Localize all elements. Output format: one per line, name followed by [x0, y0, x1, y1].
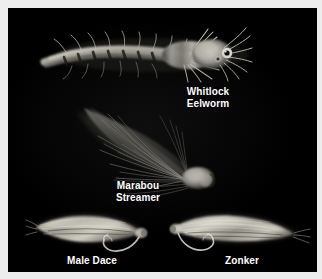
photo-frame: Whitlock Eelworm Marabou Streamer Male D…: [0, 0, 322, 279]
fly-whitlock-eelworm: [38, 22, 253, 84]
fly-male-dace: [26, 204, 156, 260]
photograph-black-background: Whitlock Eelworm Marabou Streamer Male D…: [8, 8, 317, 272]
fly-zonker: [166, 202, 311, 260]
caption-male-dace: Male Dace: [40, 255, 144, 267]
caption-zonker: Zonker: [190, 255, 294, 267]
caption-whitlock-eelworm: Whitlock Eelworm: [156, 86, 260, 109]
caption-marabou-streamer: Marabou Streamer: [86, 180, 190, 203]
